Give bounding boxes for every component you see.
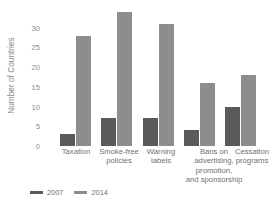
bar-group <box>143 12 174 146</box>
bar <box>159 24 174 146</box>
y-axis-title-label: Number of Countries <box>7 37 16 114</box>
bar <box>76 36 91 146</box>
x-axis-label: Cessation programs <box>222 147 275 166</box>
legend-label: 2007 <box>47 188 63 197</box>
y-axis-tick-10: 10 <box>32 102 40 111</box>
bar-group <box>60 12 91 146</box>
bar <box>241 75 256 146</box>
bar <box>200 83 215 146</box>
x-axis-category-labels: TaxationSmoke-free policiesWarning label… <box>46 147 275 187</box>
bar-group <box>101 12 132 146</box>
legend-swatch <box>74 191 87 194</box>
legend-label: 2014 <box>91 188 107 197</box>
bar <box>184 130 199 146</box>
legend-item-2014: 2014 <box>74 188 107 197</box>
bar <box>60 134 75 146</box>
bar <box>143 118 158 146</box>
legend-item-2007: 2007 <box>30 188 63 197</box>
bar <box>117 12 132 146</box>
y-axis-tick-20: 20 <box>32 63 40 72</box>
y-axis-tick-labels: 051015202530 <box>22 0 44 150</box>
y-axis-tick-5: 5 <box>36 122 40 131</box>
bar <box>225 107 240 146</box>
y-axis-tick-30: 30 <box>32 23 40 32</box>
bar-chart-figure: Number of Countries 051015202530 Taxatio… <box>0 0 275 206</box>
bar <box>101 118 116 146</box>
y-axis-tick-25: 25 <box>32 43 40 52</box>
y-axis-tick-0: 0 <box>36 142 40 151</box>
bar-group <box>225 12 256 146</box>
chart-legend: 20072014 <box>30 188 108 197</box>
y-axis-tick-15: 15 <box>32 82 40 91</box>
legend-swatch <box>30 191 43 194</box>
plot-area <box>46 12 271 146</box>
bar-group <box>184 12 215 146</box>
y-axis-title: Number of Countries <box>0 0 22 150</box>
